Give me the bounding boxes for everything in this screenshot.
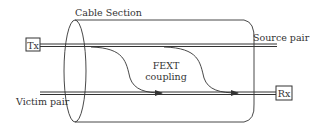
source-pair-line [40,44,277,47]
tx-node: Tx [26,38,40,51]
rx-label: Rx [278,88,291,99]
tx-label: Tx [27,40,39,51]
fext-label-line1: FEXT [153,60,180,71]
cable-section-label: Cable Section [75,7,142,18]
victim-pair-label: Victim pair [15,96,70,107]
rx-node: Rx [276,86,292,100]
source-pair-label: Source pair [253,32,310,43]
fext-coupling-arrow-1 [91,47,162,93]
fext-diagram: Tx Rx Cable Section Source pair Victim p… [0,0,317,129]
fext-label-line2: coupling [145,71,187,82]
